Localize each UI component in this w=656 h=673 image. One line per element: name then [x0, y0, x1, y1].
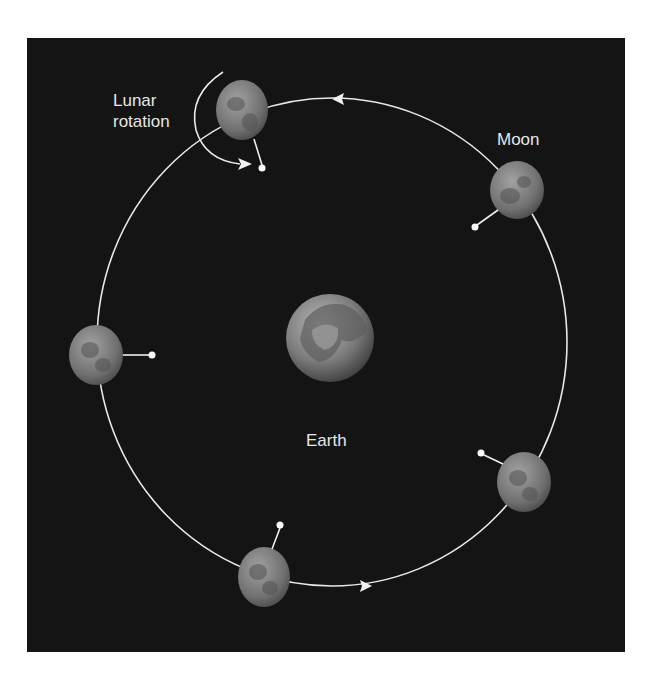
lunar-label-line1: Lunar [113, 90, 170, 111]
moon-icon-bottom [238, 522, 290, 608]
orbit-arrow-bottom-icon [360, 580, 372, 592]
moon-icon-lower-right [478, 450, 552, 513]
moon-icon-upper-right [472, 161, 545, 231]
earth-label: Earth [306, 430, 347, 451]
lunar-label-line2: rotation [113, 111, 170, 132]
moon-icon-top [216, 80, 268, 172]
earth-icon [286, 294, 374, 382]
moon-label: Moon [497, 129, 540, 150]
moon-icon-left [69, 325, 156, 385]
lunar-rotation-arrow-icon [238, 158, 252, 170]
lunar-rotation-label: Lunar rotation [113, 90, 170, 132]
orbit-diagram [0, 0, 656, 673]
